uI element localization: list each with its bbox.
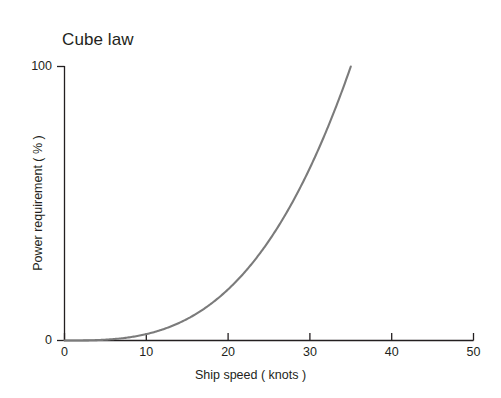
- x-tick-label-50: 50: [454, 345, 494, 359]
- x-tick-label-40: 40: [372, 345, 412, 359]
- x-tick-label-10: 10: [126, 345, 166, 359]
- chart-title: Cube law: [62, 30, 134, 50]
- chart-figure: Cube law 100 0 0 10 20 30 40 50 Ship spe…: [0, 0, 501, 398]
- y-tick-label-100: 100: [12, 59, 52, 73]
- x-tick-label-20: 20: [208, 345, 248, 359]
- x-axis-label: Ship speed ( knots ): [0, 368, 501, 382]
- power-curve-line: [65, 67, 351, 341]
- y-axis-label: Power requirement ( % ): [31, 103, 45, 303]
- chart-plot-area: [0, 0, 501, 398]
- x-tick-label-0: 0: [45, 345, 85, 359]
- x-tick-label-30: 30: [290, 345, 330, 359]
